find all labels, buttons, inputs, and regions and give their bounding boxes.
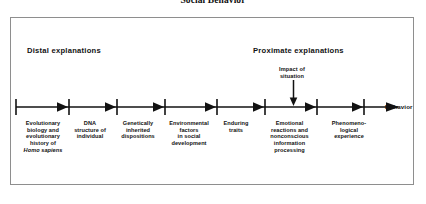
- figure-canvas: Social Behavior Distal explanations Prox…: [0, 0, 426, 204]
- stage-5-line-3: information: [258, 140, 321, 147]
- stage-4-line-0: Enduring: [212, 120, 260, 127]
- impact-label-line-2: situation: [268, 73, 316, 80]
- stage-4-line-1: traits: [212, 127, 260, 134]
- stage-caption-5: Emotional reactions and nonconscious inf…: [258, 120, 321, 154]
- impact-label-line-1: Impact of: [268, 66, 316, 73]
- stage-6-line-2: experience: [320, 133, 378, 140]
- section-heading-proximate: Proximate explanations: [253, 46, 344, 55]
- stage-6-line-0: Phenomeno-: [320, 120, 378, 127]
- stage-6-line-1: logical: [320, 127, 378, 134]
- stage-5-line-4: processing: [258, 147, 321, 154]
- stage-caption-6: Phenomeno- logical experience: [320, 120, 378, 140]
- stage-caption-4: Enduring traits: [212, 120, 260, 133]
- stage-0-line-3: history of: [10, 140, 76, 147]
- main-axis: [12, 96, 404, 118]
- stage-3-line-2: in social: [157, 133, 221, 140]
- impact-of-situation-label: Impact of situation: [268, 66, 316, 79]
- stage-0-line-italic: Homo sapiens: [10, 147, 76, 154]
- figure-title: Social Behavior: [0, 0, 426, 5]
- stage-5-line-0: Emotional: [258, 120, 321, 127]
- stage-3-line-3: development: [157, 140, 221, 147]
- section-heading-distal: Distal explanations: [27, 46, 101, 55]
- axis-end-label: Behavior: [385, 103, 413, 110]
- stage-5-line-1: reactions and: [258, 127, 321, 134]
- stage-5-line-2: nonconscious: [258, 133, 321, 140]
